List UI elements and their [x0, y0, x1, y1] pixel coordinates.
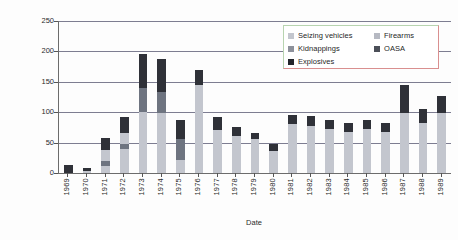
- x-axis-tick-label: 1970: [82, 178, 90, 196]
- bar-segment: [139, 112, 148, 173]
- bar-segment: [139, 88, 148, 112]
- stacked-bar: [232, 127, 241, 173]
- bar-segment: [213, 130, 222, 135]
- bar-segment: [325, 135, 334, 173]
- bar-segment: [363, 135, 372, 173]
- stacked-bar: [363, 120, 372, 174]
- legend-item[interactable]: Firearms: [374, 29, 414, 42]
- legend-label: OASA: [384, 44, 405, 53]
- x-axis-tick-label: 1982: [306, 178, 314, 196]
- x-axis-tickmark: [329, 173, 330, 177]
- stacked-bar: [213, 117, 222, 173]
- bar-segment: [139, 54, 148, 87]
- legend-label: Seizing vehicles: [298, 31, 353, 40]
- bar-segment: [176, 139, 185, 160]
- bar-group: [232, 21, 241, 173]
- bar-segment: [419, 109, 428, 122]
- bar-segment: [288, 132, 297, 173]
- legend-column-left: Seizing vehiclesKidnappingsExplosives: [288, 29, 353, 68]
- bar-segment: [251, 139, 260, 144]
- legend-item[interactable]: Seizing vehicles: [288, 29, 353, 42]
- x-axis-tick-label: 1972: [119, 178, 127, 196]
- bar-segment: [269, 151, 278, 153]
- x-axis-tick-label: 1969: [63, 178, 71, 196]
- bar-segment: [120, 133, 129, 144]
- x-axis-tick-label: 1983: [325, 178, 333, 196]
- legend-label: Kidnappings: [298, 44, 340, 53]
- bar-segment: [381, 123, 390, 132]
- bar-group: [176, 21, 185, 173]
- x-axis-tickmark: [403, 173, 404, 177]
- chart-legend: Seizing vehiclesKidnappingsExplosives Fi…: [283, 25, 439, 69]
- bar-segment: [325, 129, 334, 135]
- x-axis-tick-label: 1981: [287, 178, 295, 196]
- chart-figure: Number of crimes 050100150200250 1969197…: [0, 0, 458, 240]
- stacked-bar: [325, 120, 334, 174]
- bar-segment: [288, 124, 297, 131]
- bar-segment: [120, 144, 129, 149]
- bar-segment: [363, 129, 372, 135]
- bar-segment: [176, 120, 185, 139]
- x-axis-tickmark: [254, 173, 255, 177]
- bar-segment: [251, 133, 260, 139]
- stacked-bar: [381, 123, 390, 173]
- bar-segment: [101, 166, 110, 173]
- bar-segment: [381, 132, 390, 137]
- bar-group: [157, 21, 166, 173]
- bar-segment: [344, 123, 353, 132]
- x-axis-tick-label: 1986: [381, 178, 389, 196]
- stacked-bar: [195, 70, 204, 173]
- bar-segment: [101, 138, 110, 150]
- stacked-bar: [64, 165, 73, 174]
- bar-segment: [157, 59, 166, 91]
- y-axis-tick-label: 200: [28, 47, 54, 55]
- x-axis-tick-label: 1978: [231, 178, 239, 196]
- bar-segment: [307, 116, 316, 126]
- y-axis-ticks: 050100150200250: [24, 0, 54, 240]
- x-axis-tickmark: [441, 173, 442, 177]
- bar-segment: [157, 92, 166, 114]
- bar-segment: [157, 113, 166, 173]
- bar-segment: [120, 149, 129, 173]
- bar-group: [139, 21, 148, 173]
- x-axis-tick-label: 1988: [418, 178, 426, 196]
- stacked-bar: [269, 144, 278, 173]
- x-axis-title: Date: [58, 218, 450, 227]
- legend-column-right: FirearmsOASA: [374, 29, 414, 55]
- legend-label: Firearms: [384, 31, 414, 40]
- x-axis-tick-label: 1974: [157, 178, 165, 196]
- x-axis-tick-label: 1980: [269, 178, 277, 196]
- bar-segment: [101, 161, 110, 166]
- legend-item[interactable]: OASA: [374, 42, 414, 55]
- bar-group: [83, 21, 92, 173]
- x-axis-tickmark: [235, 173, 236, 177]
- bar-segment: [400, 113, 409, 125]
- bar-group: [101, 21, 110, 173]
- x-axis-tickmark: [385, 173, 386, 177]
- bar-segment: [232, 127, 241, 136]
- bar-segment: [269, 154, 278, 173]
- bar-segment: [419, 123, 428, 134]
- bar-segment: [400, 85, 409, 113]
- stacked-bar: [437, 96, 446, 173]
- x-axis-tickmark: [161, 173, 162, 177]
- stacked-bar: [400, 85, 409, 173]
- x-axis-tickmark: [123, 173, 124, 177]
- stacked-bar: [307, 116, 316, 173]
- x-axis-tick-label: 1985: [362, 178, 370, 196]
- bar-segment: [307, 126, 316, 132]
- legend-item[interactable]: Kidnappings: [288, 42, 353, 55]
- bar-segment: [363, 120, 372, 130]
- x-axis-tick-label: 1979: [250, 178, 258, 196]
- legend-swatch-icon: [374, 46, 380, 52]
- bar-segment: [381, 137, 390, 173]
- bar-group: [64, 21, 73, 173]
- bar-segment: [101, 150, 110, 161]
- bar-segment: [437, 126, 446, 173]
- bar-group: [195, 21, 204, 173]
- bar-segment: [344, 132, 353, 137]
- x-axis-tick-label: 1977: [213, 178, 221, 196]
- y-axis-tick-label: 0: [28, 169, 54, 177]
- legend-item[interactable]: Explosives: [288, 55, 353, 68]
- bar-group: [120, 21, 129, 173]
